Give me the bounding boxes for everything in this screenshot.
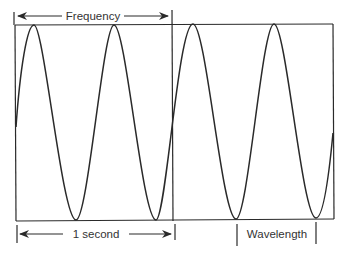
wavelength-label: Wavelength <box>247 228 307 240</box>
sine-wave <box>16 24 333 220</box>
one-second-label: 1 second <box>73 228 120 240</box>
frequency-label: Frequency <box>66 10 121 22</box>
frequency-wavelength-diagram: Frequency 1 second Wavelength <box>0 0 343 254</box>
wave-frame <box>15 24 334 221</box>
